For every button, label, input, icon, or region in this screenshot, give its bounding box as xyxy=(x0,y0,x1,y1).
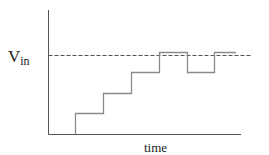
y-axis-label: Vin xyxy=(8,47,30,68)
step-response-diagram: Vin time xyxy=(0,0,269,155)
x-axis-label: time xyxy=(144,140,167,155)
staircase-signal xyxy=(76,53,237,135)
diagram-canvas: Vin time xyxy=(0,0,269,155)
